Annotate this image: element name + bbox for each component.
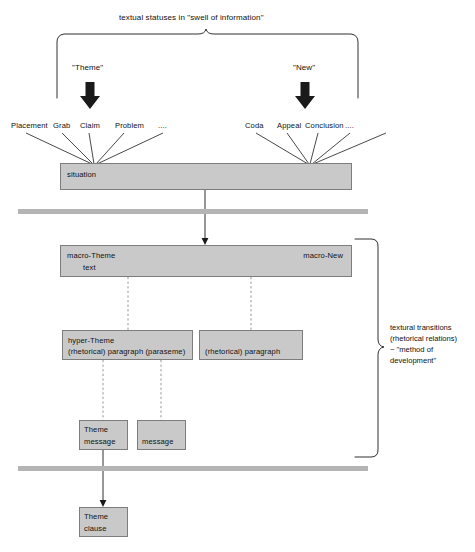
text-label: text	[83, 263, 96, 272]
macro-theme-box: macro-Theme text macro-New	[60, 245, 352, 277]
right-curly-brace	[355, 239, 384, 457]
macro-theme-label: macro-Theme	[67, 251, 115, 260]
right-annotation-line-1: textural transitions	[390, 322, 457, 333]
message-box: message	[137, 420, 186, 450]
theme-message-theme-label: Theme	[84, 425, 108, 434]
status-label-problem: Problem	[115, 122, 144, 131]
theme-message-box: Theme message	[79, 420, 128, 450]
theme-arrow-label: "Theme"	[72, 63, 103, 72]
hyper-theme-label: hyper-Theme	[68, 336, 114, 345]
macro-new-label: macro-New	[303, 251, 343, 260]
theme-status-fan-lines	[26, 133, 163, 164]
status-label-conclusion: Conclusion	[305, 122, 344, 131]
paragraph-to-message-dashed-lines	[103, 360, 161, 420]
right-annotation: textural transitions (rhetorical relatio…	[390, 322, 457, 366]
status-label-theme-ellipsis: ....	[158, 122, 167, 131]
diagram-canvas: textual statuses in "swell of informatio…	[0, 0, 475, 552]
theme-message-message-label: message	[84, 437, 116, 446]
situation-to-text-arrow	[202, 190, 209, 245]
message-box-label: message	[142, 437, 174, 446]
theme-clause-clause-label: clause	[84, 524, 107, 533]
right-annotation-line-3: ~ "method of	[390, 344, 457, 355]
right-annotation-line-2: (rhetorical relations)	[390, 333, 457, 344]
status-label-new-ellipsis: ....	[345, 122, 354, 131]
situation-box-label: situation	[67, 170, 96, 179]
hyper-theme-paraseme-label: (rhetorical) paragraph (paraseme)	[68, 347, 185, 356]
status-label-coda: Coda	[245, 122, 264, 131]
rhetorical-paragraph-box: (rhetorical) paragraph	[199, 330, 303, 360]
situation-box: situation	[60, 163, 352, 190]
status-label-claim: Claim	[80, 122, 100, 131]
new-status-fan-lines	[256, 133, 386, 164]
new-arrow-label: "New"	[293, 63, 315, 72]
rhetorical-paragraph-label: (rhetorical) paragraph	[205, 347, 280, 356]
status-label-placement: Placement	[11, 122, 48, 131]
theme-clause-box: Theme clause	[79, 507, 128, 537]
stratum-separator-upper	[18, 209, 368, 214]
stratum-separator-lower	[18, 466, 368, 471]
theme-down-arrow	[80, 82, 100, 109]
top-caption: textual statuses in "swell of informatio…	[119, 13, 264, 22]
status-label-appeal: Appeal	[277, 122, 301, 131]
message-to-clause-arrow	[100, 450, 107, 507]
theme-clause-theme-label: Theme	[84, 512, 108, 521]
status-label-grab: Grab	[53, 122, 70, 131]
text-to-paragraph-dashed-lines	[128, 277, 251, 330]
hyper-theme-box: hyper-Theme (rhetorical) paragraph (para…	[62, 330, 193, 360]
new-down-arrow	[295, 82, 315, 109]
right-annotation-line-4: development"	[390, 355, 457, 366]
